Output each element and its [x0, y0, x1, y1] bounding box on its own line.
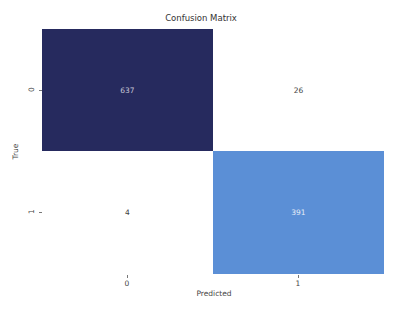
x-tick-mark-0: [127, 275, 128, 278]
chart-title: Confusion Matrix: [0, 13, 402, 23]
y-tick-label-1: 1: [27, 209, 36, 214]
cell-value: 4: [125, 208, 130, 217]
x-axis-label: Predicted: [0, 289, 402, 298]
cell-value: 26: [294, 86, 304, 95]
y-tick-mark-0: [39, 90, 42, 91]
cell-true0-pred1: 26: [213, 29, 384, 151]
x-tick-label-1: 1: [288, 279, 308, 288]
y-tick-label-0: 0: [27, 87, 36, 92]
y-axis-label: True: [11, 144, 20, 160]
y-tick-mark-1: [39, 212, 42, 213]
cell-true1-pred0: 4: [42, 151, 213, 274]
cell-value: 391: [291, 208, 305, 217]
cell-value: 637: [120, 86, 134, 95]
cell-true0-pred0: 637: [42, 29, 213, 151]
cell-true1-pred1: 391: [213, 151, 384, 274]
x-tick-mark-1: [298, 275, 299, 278]
x-tick-label-0: 0: [117, 279, 137, 288]
